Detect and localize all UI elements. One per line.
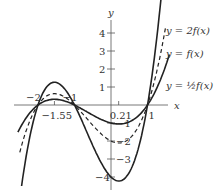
- y-tick-label: 3: [99, 46, 105, 57]
- y-tick-label: −2: [116, 136, 131, 147]
- y-tick-label: 4: [99, 28, 105, 39]
- y-tick-label: 2: [99, 64, 105, 75]
- y-tick-label: −3: [116, 154, 131, 165]
- y-tick-label: 1: [99, 82, 105, 93]
- curve-series-0: [22, 0, 162, 186]
- legend-2f: y = 2f(x): [165, 25, 210, 36]
- y-axis-label: y: [107, 7, 114, 18]
- x-axis-label: x: [174, 100, 180, 111]
- legend-half-f: y = ½f(x): [165, 80, 213, 91]
- curve-series-1: [20, 26, 166, 152]
- chart-plot: −2−1.55−10.2114321−1−2−3−4 y x y = 2f(x)…: [0, 0, 223, 193]
- x-tick-label: −1.55: [41, 110, 72, 121]
- legend-f: y = f(x): [165, 48, 204, 59]
- x-tick-label: 1: [149, 110, 155, 121]
